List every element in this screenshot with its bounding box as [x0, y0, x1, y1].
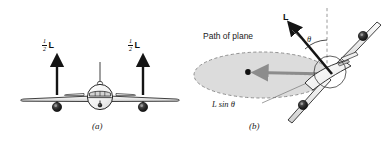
- right-lift-numerator: 1: [128, 38, 133, 44]
- left-lift-symbol: L: [49, 41, 55, 50]
- lift-vector-label: L: [283, 12, 289, 22]
- upper-engine-nacelle: [358, 31, 367, 40]
- right-main-wheel: [138, 102, 147, 111]
- left-main-wheel: [52, 102, 61, 111]
- upper-engine-hub: [361, 34, 364, 37]
- physics-figure: 1 2 L 1 2 L (a) Path of plane L θ L sin …: [0, 0, 387, 143]
- left-wing: [21, 96, 92, 102]
- right-lift-fraction: 1 2: [128, 38, 133, 52]
- theta-angle-label: θ: [307, 34, 311, 44]
- horizontal-stabilizer: [65, 94, 85, 96]
- lower-engine-nacelle: [298, 100, 307, 109]
- left-lift-label: 1 2 L: [42, 38, 54, 52]
- panel-b-caption: (b): [249, 121, 260, 131]
- right-lift-symbol: L: [135, 41, 141, 50]
- path-of-plane-label: Path of plane: [203, 31, 253, 41]
- panel-a-caption: (a): [92, 121, 103, 131]
- left-wheel-hub: [54, 104, 57, 107]
- horizontal-stabilizer-right: [116, 94, 136, 96]
- left-lift-numerator: 1: [42, 38, 47, 44]
- right-wing: [108, 96, 179, 102]
- figure-canvas: [0, 0, 387, 143]
- panel-a-aircraft-front-view: [21, 57, 180, 112]
- lower-engine-hub: [301, 103, 304, 106]
- nose-wheel: [98, 103, 102, 107]
- l-sin-theta-label: L sin θ: [212, 99, 235, 109]
- right-wheel-hub: [140, 104, 143, 107]
- right-lift-label: 1 2 L: [128, 38, 140, 52]
- right-lift-denominator: 2: [128, 46, 133, 52]
- left-lift-denominator: 2: [42, 46, 47, 52]
- left-lift-fraction: 1 2: [42, 38, 47, 52]
